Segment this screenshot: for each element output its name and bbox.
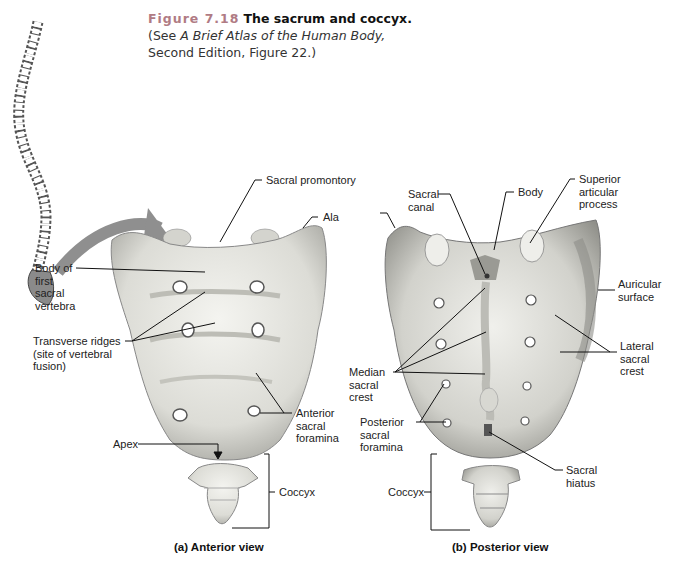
label-posterior-sacral-foramina: Posterior sacral foramina — [360, 416, 404, 454]
label-apex: Apex — [113, 438, 138, 451]
label-anterior-sacral-foramina: Anterior sacral foramina — [296, 407, 339, 445]
label-body-first-sacral-vertebra: Body of first sacral vertebra — [35, 262, 75, 312]
label-coccyx-anterior: Coccyx — [279, 486, 315, 499]
posterior-view-caption: (b) Posterior view — [452, 541, 549, 553]
label-median-sacral-crest: Median sacral crest — [349, 366, 385, 404]
label-sacral-promontory: Sacral promontory — [266, 174, 356, 187]
label-body: Body — [518, 186, 543, 199]
label-transverse-ridges: Transverse ridges (site of vertebral fus… — [33, 335, 121, 373]
anterior-view-caption: (a) Anterior view — [174, 541, 264, 553]
label-lateral-sacral-crest: Lateral sacral crest — [620, 340, 654, 378]
label-sacral-canal: Sacral canal — [408, 188, 439, 213]
label-coccyx-posterior: Coccyx — [388, 486, 424, 499]
label-auricular-surface: Auricular surface — [618, 278, 661, 303]
label-sacral-hiatus: Sacral hiatus — [566, 464, 597, 489]
label-superior-articular-process: Superior articular process — [579, 173, 621, 211]
label-ala: Ala — [323, 211, 339, 224]
